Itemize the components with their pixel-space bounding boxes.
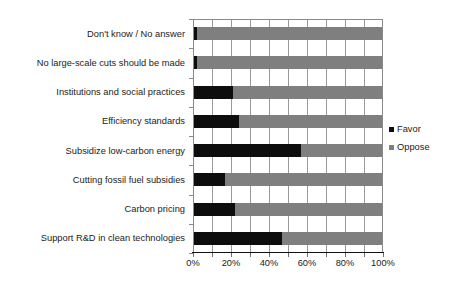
stacked-bar-chart: Don't know / No answerNo large-scale cut… <box>0 0 453 293</box>
x-axis-label-60: 60% <box>298 258 317 269</box>
gridline-90 <box>364 19 365 253</box>
x-tick-40 <box>269 253 270 257</box>
x-tick-50 <box>288 253 289 257</box>
y-axis-label: Institutions and social practices <box>56 87 185 97</box>
bar-segment-favor[interactable] <box>193 173 225 186</box>
bar-segment-oppose[interactable] <box>197 27 383 40</box>
bar-row[interactable] <box>193 56 383 69</box>
y-axis-label: Cutting fossil fuel subsidies <box>73 175 185 185</box>
bar-row[interactable] <box>193 27 383 40</box>
bar-row[interactable] <box>193 203 383 216</box>
y-tick-2 <box>189 78 193 79</box>
x-tick-10 <box>212 253 213 257</box>
oppose-swatch-icon <box>389 145 394 150</box>
bar-segment-favor[interactable] <box>193 144 301 157</box>
gridline-20 <box>231 19 232 253</box>
y-tick-3 <box>189 107 193 108</box>
x-axis-tick-labels: 0%20%40%60%80%100% <box>193 258 383 272</box>
x-axis-label-100: 100% <box>371 258 395 269</box>
x-axis-label-40: 40% <box>260 258 279 269</box>
y-tick-6 <box>189 195 193 196</box>
y-tick-7 <box>189 224 193 225</box>
y-tick-1 <box>189 48 193 49</box>
x-axis-line <box>192 252 384 253</box>
x-tick-30 <box>250 253 251 257</box>
bar-segment-oppose[interactable] <box>282 232 383 245</box>
legend-item-oppose[interactable]: Oppose <box>389 142 451 153</box>
bar-segment-oppose[interactable] <box>235 203 383 216</box>
bar-row[interactable] <box>193 115 383 128</box>
y-tick-5 <box>189 165 193 166</box>
x-tick-80 <box>345 253 346 257</box>
bar-segment-favor[interactable] <box>193 115 239 128</box>
legend-label-favor: Favor <box>397 124 421 135</box>
gridline-70 <box>326 19 327 253</box>
bar-row[interactable] <box>193 173 383 186</box>
y-axis-label: Don't know / No answer <box>87 29 185 39</box>
y-axis-label: No large-scale cuts should be made <box>37 58 185 68</box>
bar-segment-oppose[interactable] <box>197 56 383 69</box>
bar-segment-favor[interactable] <box>193 203 235 216</box>
y-tick-4 <box>189 136 193 137</box>
x-axis-label-80: 80% <box>336 258 355 269</box>
x-tick-100 <box>383 253 384 257</box>
x-tick-20 <box>231 253 232 257</box>
y-axis-label: Carbon pricing <box>125 204 185 214</box>
x-axis-label-0: 0% <box>186 258 199 269</box>
gridline-60 <box>307 19 308 253</box>
legend-item-favor[interactable]: Favor <box>389 124 451 135</box>
bar-segment-oppose[interactable] <box>239 115 383 128</box>
x-tick-70 <box>326 253 327 257</box>
gridline-30 <box>250 19 251 253</box>
x-axis-label-20: 20% <box>222 258 241 269</box>
y-axis-label: Support R&D in clean technologies <box>41 233 185 243</box>
y-axis-category-labels: Don't know / No answerNo large-scale cut… <box>0 19 189 253</box>
bar-row[interactable] <box>193 232 383 245</box>
chart-legend: Favor Oppose <box>389 124 451 160</box>
gridline-50 <box>288 19 289 253</box>
x-tick-0 <box>193 253 194 257</box>
bar-row[interactable] <box>193 86 383 99</box>
bar-segment-oppose[interactable] <box>225 173 383 186</box>
bar-segment-favor[interactable] <box>193 232 282 245</box>
x-tick-60 <box>307 253 308 257</box>
bar-segment-oppose[interactable] <box>233 86 383 99</box>
bar-row[interactable] <box>193 144 383 157</box>
bar-segment-favor[interactable] <box>193 86 233 99</box>
plot-area <box>193 19 383 253</box>
x-tick-90 <box>364 253 365 257</box>
bar-segment-oppose[interactable] <box>301 144 383 157</box>
gridline-40 <box>269 19 270 253</box>
gridline-10 <box>212 19 213 253</box>
gridline-80 <box>345 19 346 253</box>
y-axis-label: Efficiency standards <box>102 116 185 126</box>
legend-label-oppose: Oppose <box>397 142 430 153</box>
favor-swatch-icon <box>389 127 394 132</box>
y-tick-0 <box>189 19 193 20</box>
y-axis-label: Subsidize low-carbon energy <box>66 146 185 156</box>
